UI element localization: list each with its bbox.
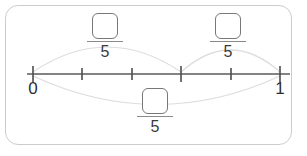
fraction-bar-whole xyxy=(137,116,173,117)
numerator-input-left[interactable] xyxy=(92,13,118,39)
number-line-end-label: 1 xyxy=(270,80,290,97)
fraction-left: 5 xyxy=(83,13,127,61)
denominator-left: 5 xyxy=(101,43,110,61)
diagram-stage: 0 1 5 5 5 xyxy=(0,0,307,156)
fraction-bar-left xyxy=(87,41,123,42)
fraction-bar-right xyxy=(210,41,246,42)
denominator-right: 5 xyxy=(224,43,233,61)
denominator-whole: 5 xyxy=(151,118,160,136)
numerator-input-right[interactable] xyxy=(215,13,241,39)
fraction-whole: 5 xyxy=(133,88,177,136)
fraction-right: 5 xyxy=(206,13,250,61)
number-line-start-label: 0 xyxy=(23,80,43,97)
numerator-input-whole[interactable] xyxy=(142,88,168,114)
